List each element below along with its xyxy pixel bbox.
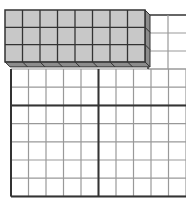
cube-strip <box>5 10 150 67</box>
base-ten-diagram <box>0 0 186 205</box>
